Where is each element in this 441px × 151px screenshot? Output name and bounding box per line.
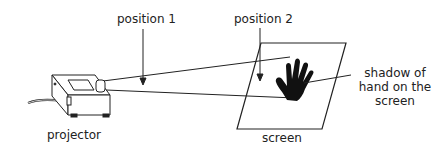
light-beam xyxy=(103,57,295,98)
screen-label: screen xyxy=(262,131,302,145)
position-1-label: position 1 xyxy=(117,12,176,26)
projector-icon xyxy=(28,75,110,117)
shadow-label-line3: screen xyxy=(353,94,437,108)
shadow-label: shadow of hand on the screen xyxy=(353,66,437,108)
projector-label: projector xyxy=(47,128,101,142)
hand-shadow-icon xyxy=(276,58,314,101)
shadow-label-line1: shadow of xyxy=(353,66,437,80)
shadow-label-line2: hand on the xyxy=(353,80,437,94)
position-2-label: position 2 xyxy=(234,12,293,26)
